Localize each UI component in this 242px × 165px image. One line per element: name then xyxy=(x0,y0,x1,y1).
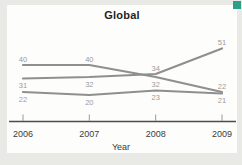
figure-canvas: Global 404032223132345122202321200620072… xyxy=(0,0,242,165)
x-tick-label: 2006 xyxy=(13,129,33,139)
point-label: 51 xyxy=(218,38,226,47)
point-label: 23 xyxy=(152,93,160,102)
point-label: 32 xyxy=(85,80,93,89)
line-flat-line xyxy=(23,91,222,96)
point-label: 40 xyxy=(19,55,27,64)
x-tick-label: 2007 xyxy=(79,129,99,139)
line-rising-line xyxy=(23,49,222,79)
point-label: 20 xyxy=(85,98,93,107)
line-chart: 4040322231323451222023212006200720082009… xyxy=(0,0,242,165)
x-axis-title: Year xyxy=(112,142,130,152)
point-label: 32 xyxy=(152,80,160,89)
point-label: 21 xyxy=(218,96,226,105)
x-tick-label: 2008 xyxy=(146,129,166,139)
x-tick-label: 2009 xyxy=(212,129,232,139)
point-label: 40 xyxy=(85,55,93,64)
point-label: 22 xyxy=(19,95,27,104)
point-label: 22 xyxy=(218,82,226,91)
point-label: 34 xyxy=(152,64,160,73)
point-label: 31 xyxy=(19,81,27,90)
corner-accent-square xyxy=(233,1,241,9)
